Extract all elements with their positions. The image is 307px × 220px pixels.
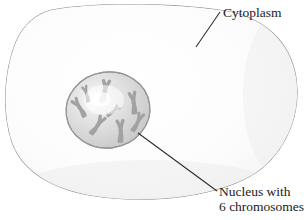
cell-diagram: Cytoplasm Nucleus with 6 chromosomes <box>0 0 307 220</box>
nucleus-highlight-core <box>91 92 111 106</box>
nucleus-label-line-1: Nucleus with <box>219 184 291 199</box>
cytoplasm-label: Cytoplasm <box>223 5 282 20</box>
nucleus-label-line-2: 6 chromosomes <box>219 199 304 214</box>
